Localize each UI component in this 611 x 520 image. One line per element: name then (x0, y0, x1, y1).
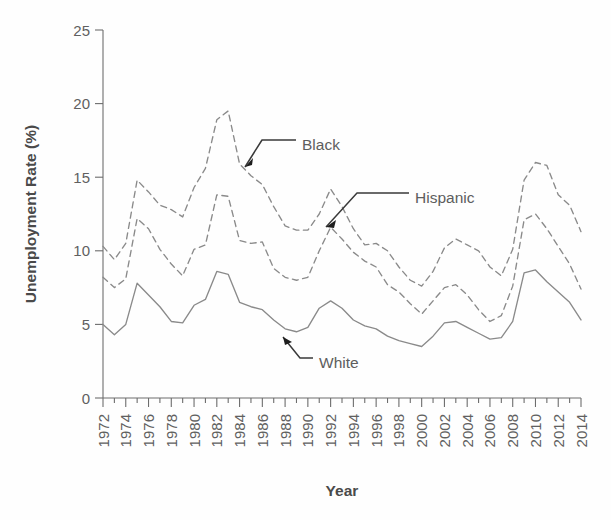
x-tick-label: 2004 (459, 414, 476, 447)
x-tick-label: 1992 (322, 414, 339, 447)
y-tick-label: 20 (73, 95, 90, 112)
chart-figure: 0510152025 19721974197619781980198219841… (0, 0, 611, 520)
x-tick-label: 2012 (550, 414, 567, 447)
x-axis-ticks: 1972197419761978198019821984198619881990… (95, 398, 590, 447)
y-tick-label: 10 (73, 242, 90, 259)
x-tick-label: 1996 (368, 414, 385, 447)
annotation-leader-black (245, 140, 296, 167)
x-tick-label: 2014 (573, 414, 590, 447)
axes (103, 30, 581, 398)
series-annotations: BlackHispanicWhite (245, 136, 475, 371)
x-tick-label: 1982 (208, 414, 225, 447)
x-tick-label: 1998 (390, 414, 407, 447)
x-tick-label: 2000 (413, 414, 430, 447)
data-series-group (103, 111, 581, 347)
x-tick-label: 1986 (254, 414, 271, 447)
annotation-leader-hispanic (326, 193, 409, 227)
x-tick-label: 2008 (504, 414, 521, 447)
x-tick-label: 1984 (231, 414, 248, 447)
y-tick-label: 0 (82, 390, 90, 407)
annotation-label-hispanic: Hispanic (415, 189, 475, 206)
y-axis-title: Unemployment Rate (%) (22, 125, 39, 303)
annotation-label-black: Black (302, 136, 340, 153)
x-tick-label: 1974 (117, 414, 134, 447)
x-tick-label: 2010 (527, 414, 544, 447)
x-tick-label: 1988 (277, 414, 294, 447)
x-tick-label: 1976 (140, 414, 157, 447)
y-tick-label: 25 (73, 22, 90, 39)
x-tick-label: 1994 (345, 414, 362, 447)
x-tick-label: 1972 (95, 414, 112, 447)
annotation-arrowhead-white (283, 337, 292, 345)
annotation-label-white: White (319, 354, 359, 371)
x-axis-title: Year (326, 482, 359, 499)
x-tick-label: 1990 (299, 414, 316, 447)
x-tick-label: 1980 (186, 414, 203, 447)
y-tick-label: 5 (82, 316, 90, 333)
series-line-white (103, 270, 581, 347)
x-tick-label: 1978 (163, 414, 180, 447)
y-tick-label: 15 (73, 169, 90, 186)
x-tick-label: 2002 (436, 414, 453, 447)
series-line-black (103, 111, 581, 286)
y-axis-ticks: 0510152025 (73, 22, 103, 407)
unemployment-rate-line-chart: 0510152025 19721974197619781980198219841… (0, 0, 611, 520)
x-tick-label: 2006 (481, 414, 498, 447)
